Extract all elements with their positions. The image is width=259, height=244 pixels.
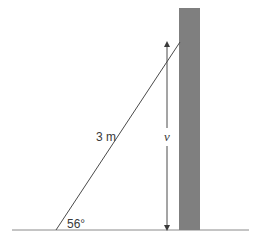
ladder-length-label: 3 m: [96, 130, 116, 144]
wall: [179, 8, 200, 230]
height-variable-label: v: [164, 129, 170, 144]
ladder-line: [56, 42, 180, 230]
angle-label: 56°: [67, 217, 85, 231]
ladder-diagram: 3 m v 56°: [0, 0, 259, 244]
